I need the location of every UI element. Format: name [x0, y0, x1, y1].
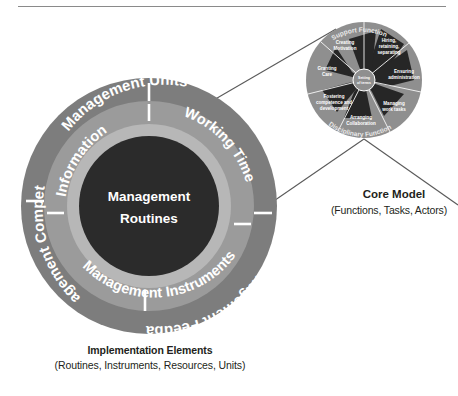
core-model-task-creating-motivation: Creating Motivation: [334, 40, 357, 51]
svg-text:work tasks: work tasks: [381, 107, 406, 112]
implementation-elements-caption-title: Implementation Elements: [0, 344, 300, 356]
svg-text:competence and: competence and: [316, 100, 352, 105]
core-label-line2: Routines: [120, 211, 178, 226]
svg-text:Motivation: Motivation: [334, 46, 357, 51]
core-disc: [79, 136, 219, 276]
svg-text:Fostering: Fostering: [324, 94, 345, 99]
diagram-canvas: Management Units Management Competence M…: [0, 0, 458, 396]
core-model-hub-label-line1: Setting: [358, 76, 370, 80]
core-model-caption-subtitle: (Functions, Tasks, Actors): [320, 204, 458, 216]
svg-text:retaining,: retaining,: [379, 44, 400, 49]
svg-text:development: development: [320, 106, 349, 111]
core-model-hub-label-line2: of terms: [357, 81, 371, 85]
svg-text:Managing: Managing: [383, 101, 405, 106]
core-model-caption-title: Core Model: [330, 188, 458, 200]
svg-text:Granting: Granting: [317, 66, 336, 71]
core-model-hub: [353, 69, 375, 91]
svg-text:Creating: Creating: [336, 40, 355, 45]
core-model-diagram: Setting of terms Support Function Discip…: [306, 22, 422, 139]
svg-text:separating: separating: [377, 50, 400, 55]
svg-text:administration: administration: [388, 75, 420, 80]
svg-text:Arranging: Arranging: [350, 115, 372, 120]
core-model-task-arranging-collaboration: Arranging Collaboration: [346, 115, 376, 126]
main-model-diagram: Management Units Management Competence M…: [0, 0, 277, 340]
svg-text:Ensuring: Ensuring: [394, 69, 414, 74]
core-model-task-managing-work-tasks: Managing work tasks: [381, 101, 406, 112]
svg-text:Care: Care: [322, 72, 333, 77]
svg-text:Collaboration: Collaboration: [346, 121, 376, 126]
implementation-elements-caption-subtitle: (Routines, Instruments, Resources, Units…: [0, 359, 300, 371]
core-label-line1: Management: [108, 189, 191, 204]
svg-text:Hiring,: Hiring,: [382, 38, 397, 43]
